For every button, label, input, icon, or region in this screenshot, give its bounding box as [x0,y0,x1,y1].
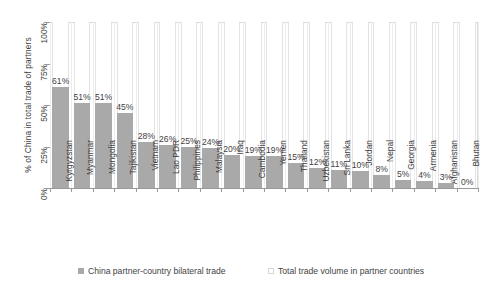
x-axis-category-label: Nepal [385,140,395,194]
x-axis-category-label: Mongolia [107,140,117,194]
legend-item[interactable]: Total trade volume in partner countries [268,266,424,276]
x-axis-category-label: Philippines [192,140,202,194]
y-axis-tick-label: 0% [39,188,49,228]
x-axis-category-label: Armenia [428,140,438,194]
y-axis-tick-label: 100% [39,22,49,62]
x-axis-category-label: Thailand [299,140,309,194]
y-axis-tick-label: 25% [39,147,49,187]
bar-chart: % of China in total trade of partners 0%… [0,0,501,288]
x-axis-category-label: Tajikistan [128,140,138,194]
gridline [50,22,51,188]
x-axis-tick-mark [50,188,51,192]
x-axis-category-label: Afghanistan [449,140,459,194]
x-axis-category-label: Uzbekistan [321,140,331,194]
legend-label: China partner-country bilateral trade [88,266,226,276]
legend-item[interactable]: China partner-country bilateral trade [78,266,226,276]
x-axis-category-label: Kyrgyzstan [64,140,74,194]
x-axis-category-label: Yemen [278,140,288,194]
x-axis-category-label: Jordan [364,140,374,194]
x-axis-category-label: Vietnam [150,140,160,194]
x-axis-category-label: Bhutan [471,140,481,194]
y-axis-title: % of China in total trade of partners [23,15,33,195]
x-axis-category-label: Georgia [406,140,416,194]
x-axis-category-label: Sri Lanka [342,140,352,194]
x-axis-category-label: Myanmar [85,140,95,194]
legend-swatch-icon [268,268,274,274]
x-axis-category-label: Cambodia [257,140,267,194]
x-axis-category-label: Lao PDR [171,140,181,194]
legend-swatch-icon [78,268,84,274]
x-axis-category-label: Malaysia [214,140,224,194]
legend-label: Total trade volume in partner countries [278,266,424,276]
x-axis-category-label: Iraq [235,140,245,194]
legend: China partner-country bilateral tradeTot… [0,262,501,278]
y-axis-tick-label: 50% [39,105,49,145]
